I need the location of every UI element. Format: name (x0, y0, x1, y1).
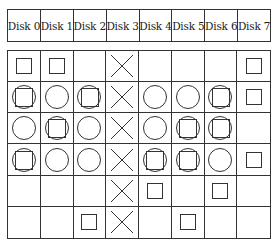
cross-icon (110, 179, 134, 203)
circle-with-square-icon (77, 85, 101, 109)
square-icon (246, 89, 262, 105)
block-cell (172, 207, 205, 238)
disk-header-4: Disk 4 (140, 10, 173, 41)
block-cell (205, 82, 238, 113)
block-cell (41, 51, 74, 82)
circle-icon (143, 116, 167, 140)
block-cell (205, 207, 238, 238)
square-icon (16, 58, 32, 74)
block-cell (205, 144, 238, 175)
circle-with-square-icon (208, 116, 232, 140)
cross-icon (110, 54, 134, 78)
disk-header-2: Disk 2 (74, 10, 107, 41)
block-cell (8, 176, 41, 207)
block-cell (74, 113, 107, 144)
block-cell (139, 144, 172, 175)
disk-header-1: Disk 1 (41, 10, 74, 41)
block-cell (172, 144, 205, 175)
block-cell (74, 82, 107, 113)
block-cell (205, 176, 238, 207)
cross-icon (110, 116, 134, 140)
cross-icon (110, 148, 134, 172)
square-icon (212, 183, 228, 199)
circle-with-square-icon (208, 85, 232, 109)
block-cell (41, 176, 74, 207)
block-cell (74, 176, 107, 207)
block-cell (237, 82, 270, 113)
disk-block-grid (7, 50, 271, 239)
circle-with-square-icon (176, 116, 200, 140)
circle-icon (77, 148, 101, 172)
cross-icon (110, 210, 134, 234)
circle-icon (208, 148, 232, 172)
block-cell (41, 82, 74, 113)
block-cell (205, 51, 238, 82)
square-icon (49, 58, 65, 74)
circle-icon (12, 116, 36, 140)
disk-header-0: Disk 0 (8, 10, 41, 41)
square-icon (180, 214, 196, 230)
disk-header-6: Disk 6 (205, 10, 238, 41)
block-cell (74, 144, 107, 175)
block-cell (106, 113, 139, 144)
square-icon (246, 152, 262, 168)
block-cell (106, 207, 139, 238)
block-cell (139, 176, 172, 207)
block-cell (106, 51, 139, 82)
block-cell (74, 207, 107, 238)
circle-icon (45, 148, 69, 172)
disk-header-5: Disk 5 (172, 10, 205, 41)
block-cell (237, 144, 270, 175)
block-cell (41, 207, 74, 238)
square-icon (147, 183, 163, 199)
circle-with-square-icon (176, 148, 200, 172)
block-cell (139, 82, 172, 113)
circle-with-square-icon (12, 148, 36, 172)
block-cell (139, 207, 172, 238)
block-cell (172, 113, 205, 144)
block-cell (8, 82, 41, 113)
block-cell (106, 176, 139, 207)
block-cell (41, 144, 74, 175)
block-cell (106, 82, 139, 113)
block-cell (8, 207, 41, 238)
block-cell (172, 51, 205, 82)
circle-with-square-icon (143, 148, 167, 172)
block-cell (139, 51, 172, 82)
block-cell (8, 144, 41, 175)
disk-header-row: Disk 0Disk 1Disk 2Disk 3Disk 4Disk 5Disk… (7, 9, 271, 42)
disk-header-3: Disk 3 (107, 10, 140, 41)
block-cell (237, 113, 270, 144)
square-icon (81, 214, 97, 230)
circle-icon (143, 85, 167, 109)
block-cell (237, 207, 270, 238)
block-cell (106, 144, 139, 175)
block-cell (237, 51, 270, 82)
cross-icon (110, 85, 134, 109)
block-cell (237, 176, 270, 207)
disk-header-7: Disk 7 (238, 10, 270, 41)
circle-with-square-icon (45, 116, 69, 140)
block-cell (172, 176, 205, 207)
block-cell (139, 113, 172, 144)
circle-icon (176, 85, 200, 109)
block-cell (205, 113, 238, 144)
block-cell (8, 51, 41, 82)
square-icon (246, 58, 262, 74)
circle-icon (77, 116, 101, 140)
block-cell (8, 113, 41, 144)
block-cell (74, 51, 107, 82)
block-cell (41, 113, 74, 144)
circle-icon (45, 85, 69, 109)
block-cell (172, 82, 205, 113)
circle-with-square-icon (12, 85, 36, 109)
